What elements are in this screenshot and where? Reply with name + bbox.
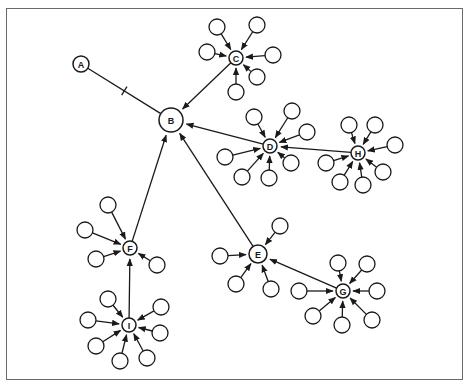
- edge-d-b: [186, 124, 263, 144]
- satellite-edge-g: [319, 297, 335, 310]
- node-label: F: [127, 244, 133, 254]
- satellite-node-h: [341, 117, 357, 133]
- satellite-node-f: [77, 222, 93, 238]
- satellite-edge-i: [134, 334, 143, 351]
- node-label: I: [128, 321, 131, 331]
- node-b: B: [159, 108, 183, 132]
- satellite-edge-c: [246, 56, 265, 58]
- satellite-node-d: [234, 169, 250, 185]
- satellite-node-c: [249, 17, 265, 33]
- satellite-node-i: [100, 291, 116, 307]
- satellite-node-g: [369, 283, 385, 299]
- satellite-node-d: [261, 170, 277, 186]
- edge-c-b: [183, 63, 231, 109]
- satellite-node-c: [265, 47, 281, 63]
- satellite-node-h: [355, 177, 371, 193]
- satellite-node-i: [112, 353, 128, 369]
- satellite-edge-i: [138, 311, 154, 320]
- node-label: C: [233, 54, 240, 64]
- satellite-edge-h: [334, 156, 349, 161]
- node-label: D: [267, 142, 274, 152]
- satellite-edge-f: [104, 251, 121, 256]
- node-a: A: [73, 56, 89, 72]
- network-diagram: ABCDHEGFI: [0, 0, 468, 388]
- satellite-edge-h: [366, 159, 377, 167]
- satellite-edge-h: [351, 133, 354, 144]
- satellite-edge-g: [339, 271, 341, 281]
- satellite-edge-i: [122, 335, 127, 354]
- node-label: G: [339, 287, 346, 297]
- satellite-edge-c: [241, 32, 252, 50]
- node-e: E: [249, 245, 267, 263]
- satellite-node-h: [387, 137, 403, 153]
- satellite-edge-h: [368, 147, 387, 151]
- satellite-node-c: [228, 84, 244, 100]
- node-label: E: [255, 250, 261, 260]
- satellite-node-d: [284, 103, 300, 119]
- satellite-node-g: [334, 317, 350, 333]
- edge-e-b: [180, 133, 253, 246]
- satellite-node-f: [100, 197, 116, 213]
- satellite-edge-d: [279, 135, 299, 143]
- satellite-edge-e: [228, 255, 246, 256]
- satellite-edge-i: [96, 321, 119, 324]
- edge-f-b: [132, 135, 166, 241]
- satellite-node-d: [246, 109, 262, 125]
- satellite-edge-f: [112, 212, 126, 239]
- edge-h-d: [281, 147, 351, 153]
- satellite-edge-h: [360, 163, 362, 177]
- satellite-edge-d: [247, 153, 263, 171]
- node-c: C: [229, 51, 243, 65]
- satellite-edge-i: [113, 305, 123, 317]
- satellite-node-g: [364, 312, 380, 328]
- satellite-edge-i: [139, 327, 153, 331]
- satellite-edge-f: [92, 233, 120, 244]
- satellite-node-g: [330, 255, 346, 271]
- satellite-node-d: [299, 124, 315, 140]
- node-label: B: [168, 116, 175, 126]
- satellite-node-i: [152, 325, 168, 341]
- satellite-node-i: [88, 338, 104, 354]
- satellite-node-f: [88, 251, 104, 267]
- satellite-node-c: [209, 19, 225, 35]
- satellite-edge-g: [350, 270, 362, 284]
- satellite-node-f: [149, 257, 165, 273]
- satellite-edge-c: [221, 34, 231, 50]
- node-h: H: [351, 146, 365, 160]
- satellite-node-c: [199, 44, 215, 60]
- satellite-edge-e: [262, 265, 268, 281]
- satellite-node-e: [228, 276, 244, 292]
- satellite-edge-d: [275, 118, 287, 138]
- satellite-edge-h: [363, 132, 371, 145]
- satellite-node-e: [272, 218, 288, 234]
- satellite-edge-f: [138, 253, 150, 260]
- satellite-node-i: [139, 350, 155, 366]
- node-label: A: [78, 60, 85, 70]
- satellite-edge-e: [241, 264, 251, 278]
- satellite-node-g: [305, 308, 321, 324]
- satellite-node-h: [367, 117, 383, 133]
- satellite-edge-e: [265, 232, 275, 244]
- node-label: H: [355, 149, 362, 159]
- edges-layer: [88, 32, 387, 353]
- satellite-edge-c: [215, 54, 226, 56]
- satellite-node-i: [80, 312, 96, 328]
- satellite-edge-c: [243, 65, 251, 72]
- satellite-node-h: [318, 155, 334, 171]
- satellite-node-c: [249, 69, 265, 85]
- satellite-node-g: [359, 256, 375, 272]
- satellite-edge-i: [103, 330, 121, 341]
- satellite-edge-d: [233, 148, 261, 155]
- node-d: D: [263, 139, 277, 153]
- tick-mark: [122, 87, 127, 95]
- satellite-node-h: [332, 174, 348, 190]
- satellite-node-e: [263, 281, 279, 297]
- edge-i-f: [129, 259, 130, 318]
- satellite-edge-h: [344, 161, 353, 175]
- satellite-edge-d: [278, 152, 285, 158]
- node-f: F: [123, 241, 137, 255]
- satellite-edge-d: [258, 124, 265, 137]
- node-g: G: [336, 284, 350, 298]
- satellite-node-i: [153, 299, 169, 315]
- satellite-node-e: [212, 248, 228, 264]
